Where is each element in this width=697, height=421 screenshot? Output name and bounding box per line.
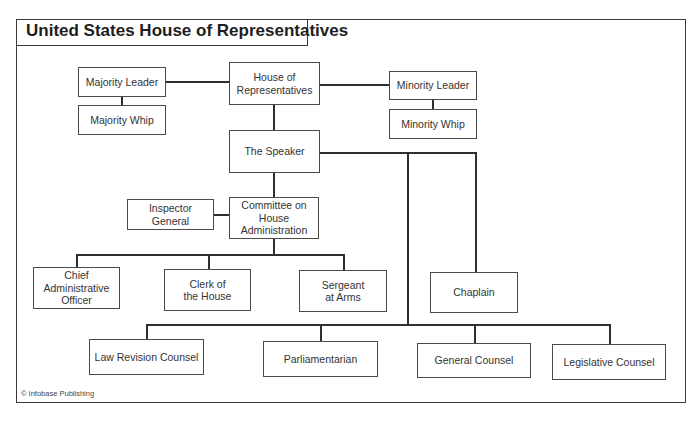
node-clerk: Clerk of the House bbox=[164, 269, 251, 311]
connector bbox=[208, 254, 210, 269]
node-chief-admin: Chief Administrative Officer bbox=[33, 267, 120, 309]
node-chaplain: Chaplain bbox=[430, 272, 518, 313]
connector bbox=[121, 96, 123, 105]
connector bbox=[273, 238, 275, 255]
connector bbox=[76, 254, 344, 256]
connector bbox=[609, 324, 611, 344]
connector bbox=[319, 152, 476, 154]
node-sergeant: Sergeant at Arms bbox=[299, 270, 387, 312]
copyright-credit: © Infobase Publishing bbox=[21, 389, 94, 398]
connector bbox=[320, 324, 322, 341]
node-parliamentarian: Parliamentarian bbox=[263, 341, 378, 377]
connector bbox=[273, 172, 275, 197]
node-inspector-general: Inspector General bbox=[127, 199, 214, 230]
connector bbox=[273, 104, 275, 130]
connector bbox=[319, 84, 389, 86]
node-law-revision: Law Revision Counsel bbox=[89, 339, 204, 375]
connector bbox=[76, 254, 78, 267]
connector bbox=[146, 324, 148, 339]
connector bbox=[343, 254, 345, 270]
connector bbox=[146, 324, 611, 326]
node-house: House of Representatives bbox=[229, 62, 320, 105]
connector bbox=[474, 324, 476, 343]
node-legislative-counsel: Legislative Counsel bbox=[552, 344, 666, 380]
node-general-counsel: General Counsel bbox=[417, 343, 531, 378]
node-majority-whip: Majority Whip bbox=[78, 105, 166, 135]
node-minority-whip: Minority Whip bbox=[389, 109, 477, 139]
connector bbox=[165, 81, 229, 83]
node-speaker: The Speaker bbox=[229, 130, 320, 173]
diagram-title: United States House of Representatives bbox=[16, 19, 308, 46]
connector bbox=[432, 99, 434, 109]
connector bbox=[213, 214, 229, 216]
connector bbox=[475, 152, 477, 272]
connector bbox=[407, 152, 409, 325]
node-minority-leader: Minority Leader bbox=[389, 71, 477, 100]
node-committee: Committee on House Administration bbox=[229, 197, 319, 239]
node-majority-leader: Majority Leader bbox=[78, 67, 166, 97]
